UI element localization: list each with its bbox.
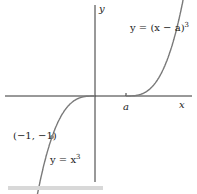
y-axis-label: y [98, 3, 105, 14]
point-label: (−1, −1) [13, 130, 57, 141]
curve2-label: y = (x − a)3 [129, 21, 189, 33]
curve-x-cubed [37, 96, 95, 194]
curve-shifted-cubic [126, 0, 184, 96]
graph: y x a y = (x − a)3 y = x3 (−1, −1) [0, 0, 197, 194]
tick-a-label: a [123, 101, 129, 112]
caption-bar [8, 186, 103, 190]
x-axis-label: x [179, 99, 185, 110]
curve1-label: y = x3 [49, 153, 81, 165]
